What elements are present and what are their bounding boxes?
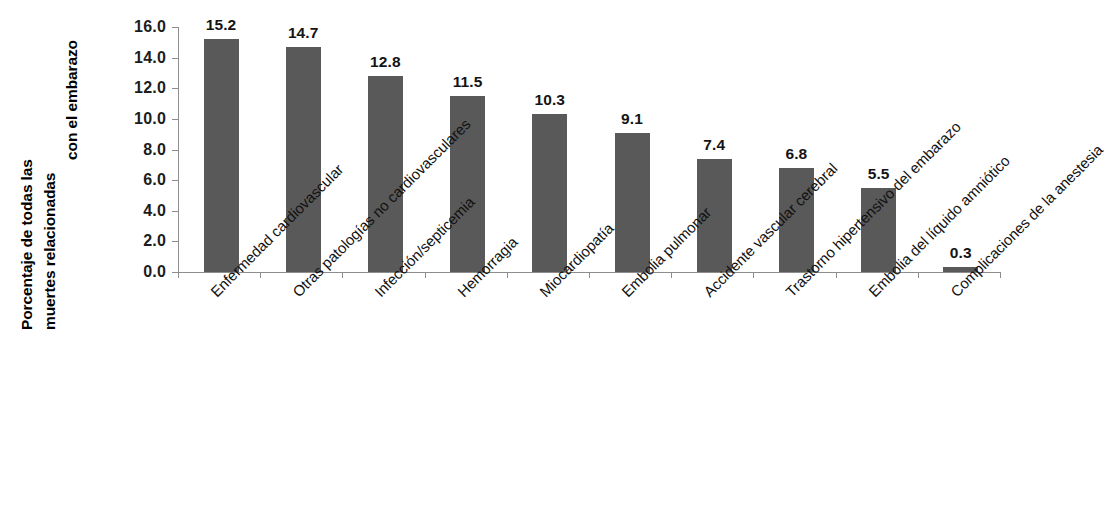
y-tick-label: 2.0 (143, 232, 166, 250)
bar (204, 39, 239, 272)
y-axis-title-line-3: con el embarazo (61, 40, 83, 160)
y-tick-label: 12.0 (134, 79, 166, 97)
y-tick-label: 0.0 (143, 263, 166, 281)
bar-value-label: 9.1 (621, 110, 643, 128)
bar (615, 133, 650, 272)
bar-value-label: 10.3 (535, 91, 566, 109)
bar (286, 47, 321, 272)
y-tick-label: 6.0 (143, 171, 166, 189)
y-tick-label: 16.0 (134, 18, 166, 36)
y-tick-label: 4.0 (143, 202, 166, 220)
y-axis-title-line-1: Porcentaje de todas las (16, 159, 38, 330)
y-axis-tick-labels: 16.014.012.010.08.06.04.02.00.0 (104, 27, 166, 272)
x-axis-category-labels: Enfermedad cardiovascularOtras patología… (178, 278, 1003, 530)
bar-value-label: 6.8 (785, 145, 807, 163)
y-tick-label: 10.0 (134, 110, 166, 128)
y-tick-label: 8.0 (143, 141, 166, 159)
bar (532, 114, 567, 272)
y-tick-label: 14.0 (134, 49, 166, 67)
bar-value-label: 7.4 (703, 136, 725, 154)
bar-value-label: 12.8 (370, 53, 401, 71)
bar-value-label: 15.2 (206, 16, 237, 34)
bar-value-label: 0.3 (950, 244, 972, 262)
y-axis-title-line-2: muertes relacionadas (39, 173, 61, 330)
bar (368, 76, 403, 272)
bar-value-label: 14.7 (288, 24, 319, 42)
y-axis-title: Porcentaje de todas las muertes relacion… (0, 40, 100, 330)
bar-value-label: 5.5 (868, 165, 890, 183)
bar-value-label: 11.5 (453, 73, 483, 91)
